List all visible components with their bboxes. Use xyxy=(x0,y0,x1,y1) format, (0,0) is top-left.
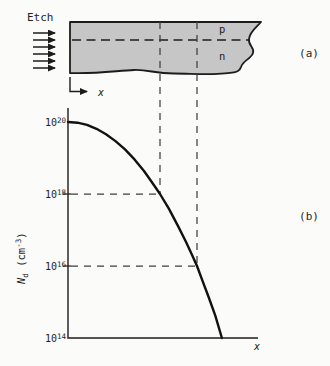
y-tick-1e20: 1020 xyxy=(45,116,67,129)
semiconductor-bar xyxy=(70,22,261,74)
panel-b-label: (b) xyxy=(299,210,319,223)
region-n-label: n xyxy=(219,50,225,62)
panel-a-x-axis-label: x xyxy=(97,87,104,98)
panel-a-label: (a) xyxy=(299,47,319,60)
y-tick-1e18: 1018 xyxy=(45,188,67,201)
plot-axes xyxy=(68,108,258,338)
panel-a: Etch p n (a) x xyxy=(27,11,319,98)
doping-profile-curve xyxy=(68,122,222,338)
figure-canvas: Etch p n (a) x 1020 1018 1016 1014 Nd (c… xyxy=(0,0,330,366)
y-axis-title: Nd (cm-3) xyxy=(14,233,30,286)
etch-label: Etch xyxy=(27,11,54,24)
panel-a-x-axis-icon xyxy=(70,77,87,92)
diffusion-profile-figure: Etch p n (a) x 1020 1018 1016 1014 Nd (c… xyxy=(0,0,330,366)
panel-b-x-axis-label: x xyxy=(253,341,260,352)
etch-arrows-icon xyxy=(33,33,55,68)
y-tick-1e16: 1016 xyxy=(45,260,67,273)
y-tick-1e14: 1014 xyxy=(45,332,67,345)
region-p-label: p xyxy=(219,23,225,35)
